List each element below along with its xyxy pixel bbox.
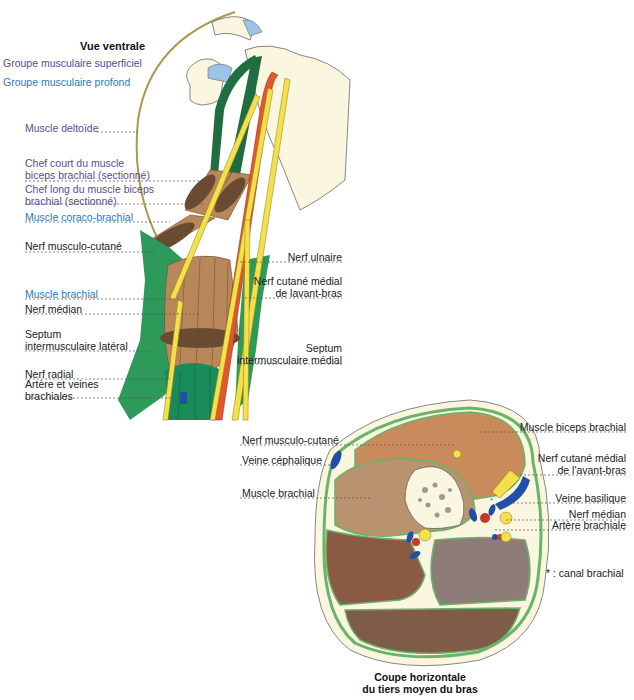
label-xs-biceps: Muscle biceps brachial xyxy=(520,421,626,433)
svg-text:*: * xyxy=(490,496,493,505)
label-xs-musculocutaneous-nerve: Nerf musculo-cutané xyxy=(242,434,339,446)
label-brachialis: Muscle brachial xyxy=(25,288,98,300)
label-median-nerve: Nerf médian xyxy=(25,303,82,315)
label-medial-septum: Septum intermusculaire médial xyxy=(237,342,342,366)
label-xs-brachial-artery: Artère brachiale xyxy=(552,519,626,531)
legend-superficial: Groupe musculaire superficiel xyxy=(3,57,142,69)
view-title: Vue ventrale xyxy=(80,40,145,52)
label-musculocutaneous-nerve: Nerf musculo-cutané xyxy=(25,240,122,252)
cross-section-illustration: * xyxy=(314,400,549,666)
label-biceps-short-head: Chef court du muscle biceps brachial (se… xyxy=(25,157,150,181)
label-lateral-septum: Septum intermusculaire latéral xyxy=(25,328,128,352)
label-medial-cutaneous-nerve-forearm: Nerf cutané médial de lavant-bras xyxy=(254,275,342,299)
legend-deep: Groupe musculaire profond xyxy=(3,76,130,88)
label-xs-basilic-vein: Veine basilique xyxy=(555,492,626,504)
label-coracobrachialis: Muscle coraco-brachial xyxy=(25,211,133,223)
label-biceps-long-head: Chef long du muscle biceps brachial (sec… xyxy=(25,183,154,207)
label-xs-brachialis: Muscle brachial xyxy=(242,487,315,499)
cross-section-caption: Coupe horizontale du tiers moyen du bras xyxy=(330,671,510,695)
label-xs-cephalic-vein: Veine céphalique xyxy=(242,454,322,466)
note-brachial-canal: * : canal brachial xyxy=(546,567,624,579)
label-brachial-vessels: Artère et veines brachiales xyxy=(25,378,99,402)
label-xs-medial-cutaneous-nerve: Nerf cutané médial de l'avant-bras xyxy=(538,452,626,476)
label-ulnar-nerve: Nerf ulnaire xyxy=(288,251,342,263)
label-deltoid: Muscle deltoïde xyxy=(25,122,99,134)
